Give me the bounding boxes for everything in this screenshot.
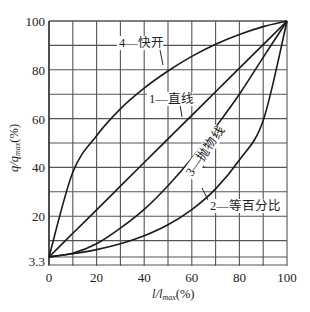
label-quick-open-leader (160, 50, 163, 65)
svg-text:1—直线: 1—直线 (149, 92, 194, 106)
label-linear: 1—直线 (147, 92, 194, 106)
x-tick-label: 100 (277, 270, 297, 285)
label-parabolic: 3—抛物线 (181, 123, 228, 181)
y-axis-label: q/qmax(%) (7, 124, 22, 172)
svg-text:3—抛物线: 3—抛物线 (182, 123, 227, 179)
x-tick-label: 0 (46, 270, 53, 285)
label-linear-leader (180, 105, 182, 117)
x-tick-label: 80 (233, 270, 246, 285)
x-tick-label: 60 (185, 270, 198, 285)
x-axis-label: l/lmax(%) (152, 287, 195, 302)
svg-text:2—等百分比: 2—等百分比 (210, 198, 281, 213)
annotations: 4—快开1—直线3—抛物线2—等百分比 (117, 36, 281, 213)
y-tick-label: 3.3 (29, 254, 45, 269)
y-tick-label: 20 (32, 209, 45, 224)
label-equal-percentage: 2—等百分比 (208, 198, 281, 213)
valve-characteristic-chart: 0204060801003.320406080100 4—快开1—直线3—抛物线… (0, 0, 310, 312)
y-tick-label: 100 (26, 14, 46, 29)
label-quick-open: 4—快开 (117, 36, 164, 50)
svg-text:4—快开: 4—快开 (119, 36, 164, 50)
x-tick-label: 20 (90, 270, 103, 285)
y-tick-label: 40 (32, 160, 45, 175)
x-tick-label: 40 (138, 270, 151, 285)
y-tick-label: 80 (32, 63, 45, 78)
y-tick-label: 60 (32, 112, 45, 127)
